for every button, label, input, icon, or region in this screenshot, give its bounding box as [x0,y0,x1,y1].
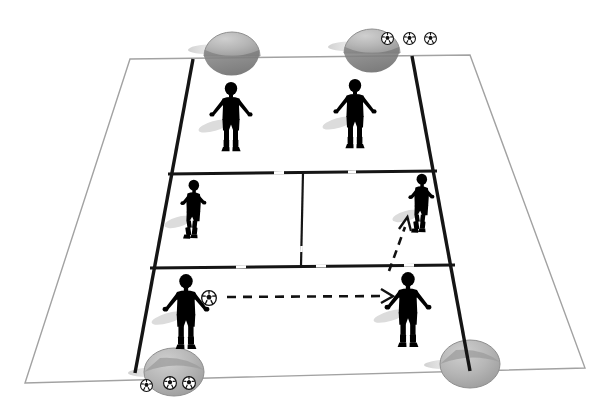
ball-top-3 [425,33,437,45]
ball-bottom-2 [164,377,177,390]
diagram-canvas [0,0,609,411]
ball-top-1 [382,33,394,45]
ball-top-2 [404,33,416,45]
ball-at-player-bottom-left [202,291,217,306]
ball-bottom-3 [183,377,196,390]
ball-bottom-1 [141,380,153,392]
soccer-pitch-svg [0,0,609,411]
field-outline [25,55,585,383]
cone-bottom-left [144,348,204,396]
